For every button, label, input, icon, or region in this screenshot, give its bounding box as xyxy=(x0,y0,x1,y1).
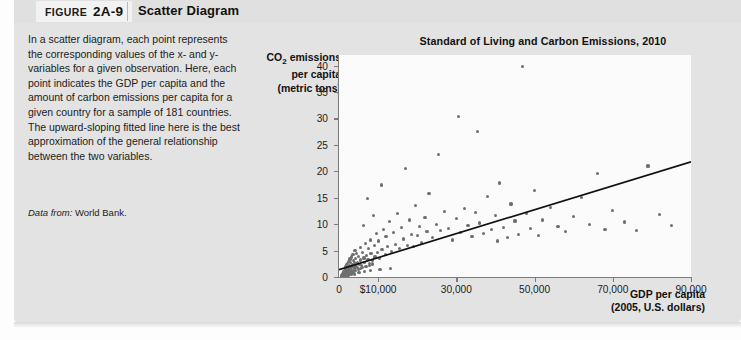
figure-root: FIGURE 2A-9 Scatter Diagram In a scatter… xyxy=(0,0,741,340)
figure-number: 2A-9 xyxy=(93,4,123,19)
y-tick-label: 25 xyxy=(288,139,328,150)
y-tick-label: 40 xyxy=(288,60,328,71)
source-lead: Data from: xyxy=(28,207,72,218)
y-tick-label: 15 xyxy=(288,192,328,203)
x-tick-mark xyxy=(456,277,457,282)
header-divider xyxy=(127,2,128,21)
source-text: World Bank. xyxy=(72,207,126,218)
figure-label-tab: FIGURE 2A-9 xyxy=(36,1,132,22)
figure-source: Data from: World Bank. xyxy=(28,206,243,219)
figure-caption: In a scatter diagram, each point represe… xyxy=(28,32,243,163)
x-tick-mark xyxy=(535,277,536,282)
figure-label-word: FIGURE xyxy=(45,6,87,18)
y-tick-label: 35 xyxy=(288,87,328,98)
figure-header-bar: FIGURE 2A-9 Scatter Diagram xyxy=(14,0,741,23)
plot-inner xyxy=(339,55,691,277)
y-tick-label: 20 xyxy=(288,166,328,177)
y-tick-label: 10 xyxy=(288,219,328,230)
x-axis-label: GDP per capita (2005, U.S. dollars) xyxy=(460,288,705,314)
x-tick-mark xyxy=(378,277,379,282)
x-tick-mark xyxy=(613,277,614,282)
fit-line xyxy=(339,55,691,277)
plot-area: 0510152025303540 0$10,00030,00050,00070,… xyxy=(338,55,691,278)
x-axis-label-line2: (2005, U.S. dollars) xyxy=(460,301,705,314)
chart-title: Standard of Living and Carbon Emissions,… xyxy=(373,35,713,47)
x-tick-mark xyxy=(691,277,692,282)
x-axis-label-line1: GDP per capita xyxy=(460,288,705,301)
figure-title: Scatter Diagram xyxy=(138,3,239,18)
scatter-chart: Standard of Living and Carbon Emissions,… xyxy=(255,30,725,310)
x-tick-label: 0 xyxy=(336,284,342,295)
panel-shadow xyxy=(14,322,741,328)
x-tick-label: $10,000 xyxy=(360,284,397,295)
y-tick-label: 0 xyxy=(288,272,328,283)
y-tick-mark xyxy=(334,277,339,278)
y-tick-label: 30 xyxy=(288,113,328,124)
y-tick-label: 5 xyxy=(288,245,328,256)
